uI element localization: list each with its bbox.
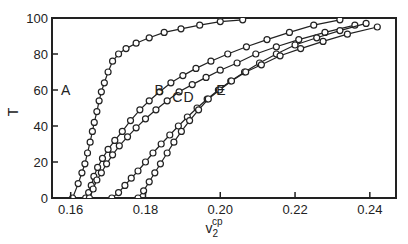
data-point <box>178 128 184 134</box>
data-point <box>258 62 264 68</box>
data-point <box>128 118 134 124</box>
data-point <box>116 143 122 149</box>
data-point <box>96 98 102 104</box>
data-point <box>217 19 223 25</box>
data-point <box>95 164 101 170</box>
data-point <box>101 80 107 86</box>
data-point <box>146 98 152 104</box>
data-point <box>142 159 148 165</box>
data-point <box>314 35 320 41</box>
data-point <box>164 98 170 104</box>
data-point <box>86 195 92 201</box>
series-label-c: C <box>172 89 182 105</box>
data-point <box>87 139 93 145</box>
data-point <box>91 119 97 125</box>
data-point <box>137 107 143 113</box>
data-point <box>164 150 170 156</box>
data-point <box>90 186 96 192</box>
data-point <box>277 53 283 59</box>
data-point <box>150 150 156 156</box>
data-point <box>311 22 317 28</box>
series-b <box>83 17 343 201</box>
data-point <box>89 128 95 134</box>
y-tick-label: 40 <box>34 119 48 134</box>
x-tick-label: 0.22 <box>282 202 307 217</box>
data-point <box>320 38 326 44</box>
data-point <box>135 195 141 201</box>
series-line <box>89 25 355 198</box>
data-point <box>112 137 118 143</box>
data-point <box>94 109 100 115</box>
data-point <box>153 107 159 113</box>
data-point <box>225 51 231 57</box>
y-axis-label: T <box>5 107 21 116</box>
x-tick-label: 0.20 <box>208 202 233 217</box>
data-point <box>243 44 249 50</box>
data-point <box>180 73 186 79</box>
data-point <box>193 65 199 71</box>
data-point <box>171 139 177 145</box>
data-point <box>105 69 111 75</box>
data-point <box>99 155 105 161</box>
data-point <box>296 37 302 43</box>
data-point <box>146 179 152 185</box>
data-point <box>205 96 211 102</box>
data-point <box>187 118 193 124</box>
series-label-b: B <box>154 82 163 98</box>
data-point <box>344 31 350 37</box>
data-point <box>374 24 380 30</box>
series-label-d: D <box>184 89 194 105</box>
data-point <box>142 116 148 122</box>
data-point <box>98 89 104 95</box>
y-tick-label: 20 <box>34 155 48 170</box>
data-point <box>253 51 259 57</box>
data-point <box>217 67 223 73</box>
series-d <box>109 20 369 201</box>
data-point <box>82 161 88 167</box>
data-point <box>116 190 122 196</box>
data-point <box>197 22 203 28</box>
data-point <box>208 58 214 64</box>
data-point <box>292 42 298 48</box>
x-tick-label: 0.16 <box>58 202 83 217</box>
data-point <box>98 170 104 176</box>
data-point <box>228 78 234 84</box>
data-point <box>273 44 279 50</box>
x-axis-label: v2cp <box>205 216 223 239</box>
x-axis-label-sup: cp <box>212 216 223 227</box>
y-axis-ticks: 020406080100 <box>26 11 58 206</box>
series-label-e: E <box>216 82 225 98</box>
series-e <box>135 24 380 201</box>
data-point <box>196 107 202 113</box>
data-point <box>133 40 139 46</box>
data-point <box>109 195 115 201</box>
data-point <box>158 141 164 147</box>
data-point <box>189 82 195 88</box>
data-point <box>161 29 167 35</box>
data-point <box>79 170 85 176</box>
data-point <box>105 146 111 152</box>
y-tick-label: 60 <box>34 83 48 98</box>
data-point <box>286 29 292 35</box>
x-tick-label: 0.24 <box>357 202 382 217</box>
data-point <box>133 125 139 131</box>
data-point <box>168 80 174 86</box>
data-point <box>122 182 128 188</box>
data-point <box>110 152 116 158</box>
y-tick-label: 80 <box>34 47 48 62</box>
data-point <box>116 51 122 57</box>
data-point <box>203 74 209 80</box>
data-point <box>85 150 91 156</box>
x-tick-label: 0.18 <box>133 202 158 217</box>
data-point <box>243 69 249 75</box>
data-point <box>128 175 134 181</box>
data-point <box>337 28 343 34</box>
data-point <box>110 58 116 64</box>
data-point <box>119 128 125 134</box>
y-tick-label: 100 <box>26 11 48 26</box>
data-point <box>363 20 369 26</box>
data-point <box>298 46 304 52</box>
data-point <box>234 60 240 66</box>
data-point <box>146 35 152 41</box>
data-point <box>135 168 141 174</box>
